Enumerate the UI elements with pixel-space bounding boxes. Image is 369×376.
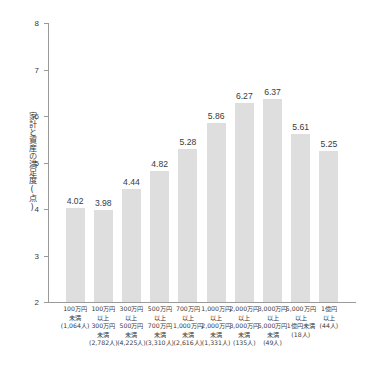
bar-group: 3.98 — [89, 23, 117, 302]
bar — [150, 171, 169, 302]
bar-value-label: 5.61 — [287, 122, 315, 132]
x-axis-category-label: 1億円以上(44人) — [310, 305, 348, 331]
bar-group: 6.37 — [258, 23, 286, 302]
y-axis-tick-label: 2 — [13, 298, 39, 307]
bar — [235, 103, 254, 302]
bar-group: 6.27 — [230, 23, 258, 302]
y-axis-tick-label: 3 — [13, 251, 39, 260]
bar-value-label: 4.82 — [146, 159, 174, 169]
bar-value-label: 5.28 — [174, 137, 202, 147]
bar-group: 4.02 — [61, 23, 89, 302]
bar-group: 4.82 — [146, 23, 174, 302]
y-axis-tick-label: 7 — [13, 65, 39, 74]
bar-group: 5.61 — [287, 23, 315, 302]
bar-value-label: 4.44 — [117, 177, 145, 187]
bar-value-label: 6.27 — [230, 91, 258, 101]
x-axis-category-label-line: 以上 — [310, 314, 348, 323]
bar — [319, 151, 338, 302]
bar-value-label: 4.02 — [61, 196, 89, 206]
bar — [291, 134, 310, 302]
bar-value-label: 6.37 — [258, 87, 286, 97]
bar — [178, 149, 197, 302]
y-axis-tick-mark — [44, 302, 48, 303]
bar-value-label: 3.98 — [89, 198, 117, 208]
x-axis-line — [48, 302, 356, 303]
y-axis-tick-label: 8 — [13, 19, 39, 28]
x-axis-category-labels: 100万円未満(1,064人)100万円以上300万円未満(2,782人)300… — [48, 305, 356, 375]
bar — [122, 189, 141, 302]
y-axis-tick-label: 5 — [13, 158, 39, 167]
bar — [263, 99, 282, 302]
y-axis-tick-label: 6 — [13, 112, 39, 121]
x-axis-category-label-line: (49人) — [254, 339, 292, 348]
plot-area: 4.023.984.444.825.285.866.276.375.615.25 — [48, 23, 356, 302]
bar — [207, 123, 226, 302]
bar-group: 5.25 — [315, 23, 343, 302]
y-axis-tick-label: 4 — [13, 205, 39, 214]
bar-value-label: 5.25 — [315, 139, 343, 149]
bar — [94, 210, 113, 302]
bar-group: 5.28 — [174, 23, 202, 302]
bar-value-label: 5.86 — [202, 111, 230, 121]
bar-group: 5.86 — [202, 23, 230, 302]
x-axis-category-label-line: 1億円 — [310, 305, 348, 314]
bar-group: 4.44 — [117, 23, 145, 302]
x-axis-category-label-line: (44人) — [310, 322, 348, 331]
bar-chart-figure: 家計と資産の満足度(点) 8765432 4.023.984.444.825.2… — [0, 0, 369, 376]
bar — [66, 208, 85, 302]
x-axis-category-label-line: (18人) — [282, 331, 320, 340]
